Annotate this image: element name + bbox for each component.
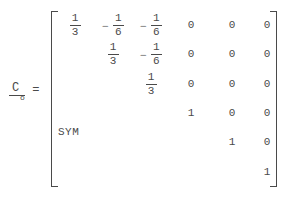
matrix-cell-r5c2 — [94, 128, 132, 157]
fraction-numerator: 1 — [70, 13, 81, 25]
matrix-term: −16 — [140, 42, 162, 67]
fraction: 13 — [70, 13, 81, 38]
matrix-term: 0 — [264, 137, 271, 148]
matrix-term: 0 — [264, 79, 271, 90]
fraction-denominator: 6 — [113, 26, 124, 38]
matrix-term: 1 — [229, 137, 236, 148]
scalar-value: 0 — [229, 79, 236, 90]
matrix-cell-r1c4: 0 — [170, 11, 212, 40]
matrix-cell-r2c4: 0 — [170, 40, 212, 69]
matrix-symbol-letter: C — [11, 82, 20, 94]
matrix-term: 0 — [264, 108, 271, 119]
matrix-cell-r3c4: 0 — [170, 70, 212, 99]
matrix-term: 0 — [188, 20, 195, 31]
matrix-cell-r3c5: 0 — [212, 70, 252, 99]
matrix-term: 0 — [264, 49, 271, 60]
matrix-symbol-c: C o — [11, 82, 20, 96]
matrix-term: 1 — [188, 108, 195, 119]
matrix-cell-r1c3: −16 — [132, 11, 170, 40]
matrix-cell-r3c3: 13 — [132, 70, 170, 99]
matrix-cell-r6c6: 1 — [252, 158, 282, 187]
matrix-cell-r6c2 — [94, 158, 132, 187]
matrix-term: 0 — [229, 108, 236, 119]
fraction-denominator: 3 — [108, 55, 119, 67]
matrix-cell-r6c3 — [132, 158, 170, 187]
scalar-value: 0 — [264, 20, 271, 31]
matrix-cell-r5c6: 0 — [252, 128, 282, 157]
matrix-cell-r3c1 — [56, 70, 94, 99]
minus-sign: − — [102, 20, 109, 32]
matrix-term: 0 — [229, 49, 236, 60]
matrix-cell-r4c5: 0 — [212, 99, 252, 128]
matrix-cell-r2c5: 0 — [212, 40, 252, 69]
matrix-cell-r1c2: −16 — [94, 11, 132, 40]
matrix-term: 0 — [229, 20, 236, 31]
matrix-cell-r6c1 — [56, 158, 94, 187]
matrix-cell-r4c4: 1 — [170, 99, 212, 128]
scalar-value: 0 — [264, 49, 271, 60]
scalar-value: 1 — [229, 137, 236, 148]
matrix-term: 0 — [264, 20, 271, 31]
scalar-value: 0 — [229, 20, 236, 31]
fraction: 13 — [146, 72, 157, 97]
fraction-numerator: 1 — [151, 42, 162, 54]
matrix-cell-r5c3 — [132, 128, 170, 157]
matrix-term: 1 — [264, 167, 271, 178]
fraction: 16 — [151, 42, 162, 67]
matrix-cell-r5c5: 1 — [212, 128, 252, 157]
matrix-term: 0 — [188, 79, 195, 90]
matrix-cell-r4c3 — [132, 99, 170, 128]
matrix-cell-r3c2 — [94, 70, 132, 99]
scalar-value: 0 — [188, 49, 195, 60]
matrix-symbol-subscript: o — [20, 94, 25, 102]
matrix-cell-r1c1: 13 — [56, 11, 94, 40]
fraction-numerator: 1 — [108, 42, 119, 54]
matrix-cell-r2c3: −16 — [132, 40, 170, 69]
equals-sign: = — [32, 84, 39, 96]
matrix-cell-r2c2: 13 — [94, 40, 132, 69]
fraction: 16 — [113, 13, 124, 38]
matrix-term: 13 — [146, 72, 157, 97]
matrix-term: 0 — [229, 79, 236, 90]
fraction-denominator: 6 — [151, 26, 162, 38]
matrix-term: −16 — [102, 13, 124, 38]
matrix-cell-r3c6: 0 — [252, 70, 282, 99]
scalar-value: 0 — [229, 108, 236, 119]
scalar-value: 0 — [264, 79, 271, 90]
minus-sign: − — [140, 49, 147, 61]
matrix-cell-r5c4 — [170, 128, 212, 157]
matrix-cell-r6c5 — [212, 158, 252, 187]
matrix-cell-r4c6: 0 — [252, 99, 282, 128]
matrix-term: 13 — [70, 13, 81, 38]
matrix-equation-figure: C o = 13 −16 −16 0 0 0 13 −16 0 0 0 13 — [0, 0, 288, 197]
matrix-term: 13 — [108, 42, 119, 67]
matrix-term: −16 — [140, 13, 162, 38]
matrix-grid: 13 −16 −16 0 0 0 13 −16 0 0 0 13 0 0 0 1 — [56, 11, 272, 187]
fraction-numerator: 1 — [146, 72, 157, 84]
scalar-value: 1 — [188, 108, 195, 119]
equation-left-hand-side: C o = — [11, 82, 39, 96]
matrix-term: 0 — [188, 49, 195, 60]
matrix-cell-r1c5: 0 — [212, 11, 252, 40]
fraction-numerator: 1 — [151, 13, 162, 25]
matrix-body: 13 −16 −16 0 0 0 13 −16 0 0 0 13 0 0 0 1 — [51, 11, 277, 187]
scalar-value: 0 — [229, 49, 236, 60]
fraction-numerator: 1 — [113, 13, 124, 25]
matrix-cell-r1c6: 0 — [252, 11, 282, 40]
fraction: 16 — [151, 13, 162, 38]
matrix-cell-r4c2 — [94, 99, 132, 128]
fraction-denominator: 6 — [151, 55, 162, 67]
symmetry-annotation: SYM — [58, 127, 79, 138]
fraction: 13 — [108, 42, 119, 67]
matrix-cell-r2c6: 0 — [252, 40, 282, 69]
scalar-value: 0 — [188, 79, 195, 90]
matrix-cell-r2c1 — [56, 40, 94, 69]
scalar-value: 0 — [264, 108, 271, 119]
scalar-value: 0 — [188, 20, 195, 31]
fraction-denominator: 3 — [146, 85, 157, 97]
matrix-cell-r4c1 — [56, 99, 94, 128]
matrix-cell-r6c4 — [170, 158, 212, 187]
scalar-value: 1 — [264, 167, 271, 178]
minus-sign: − — [140, 20, 147, 32]
fraction-denominator: 3 — [70, 26, 81, 38]
